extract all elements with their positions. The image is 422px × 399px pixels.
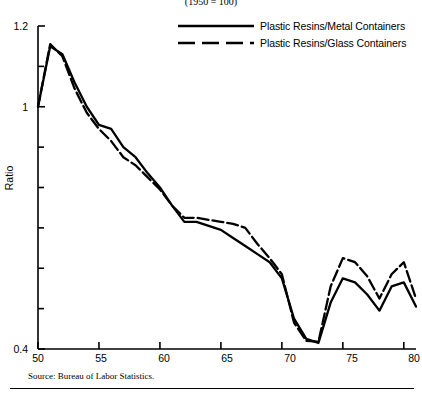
source-note: Source: Bureau of Labor Statistics. xyxy=(28,371,154,381)
plot-area xyxy=(0,0,422,399)
chart-figure: (1950 = 100) Plastic Resins/Metal Contai… xyxy=(0,0,422,399)
bottom-divider xyxy=(10,388,414,389)
series-line-metal xyxy=(38,46,416,343)
series-line-glass xyxy=(38,44,416,342)
